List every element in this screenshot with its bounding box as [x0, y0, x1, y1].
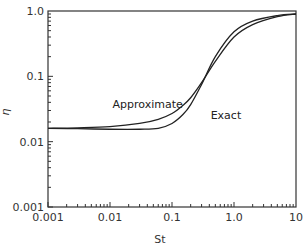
y-tick-label: 0.01 [20, 136, 45, 149]
x-tick-labels: 0.0010.010.11.010 [32, 211, 303, 224]
y-tick-label: 1.0 [27, 5, 45, 18]
x-tick-label: 0.01 [98, 211, 123, 224]
y-tick-label: 0.001 [13, 201, 45, 214]
curves [48, 14, 296, 129]
annotation-approximate: Approximate [113, 98, 183, 111]
y-tick-label: 0.1 [27, 70, 45, 83]
annotation-exact: Exact [211, 109, 242, 122]
curve-approximate [48, 14, 296, 128]
y-tick-labels: 0.0010.010.11.0 [13, 5, 45, 214]
efficiency-vs-stokes-chart: 0.0010.010.11.010 0.0010.010.11.0 Approx… [0, 0, 305, 249]
curve-exact [48, 14, 296, 129]
x-axis-label: St [154, 233, 166, 246]
x-tick-label: 1.0 [225, 211, 243, 224]
x-tick-label: 10 [289, 211, 303, 224]
x-tick-label: 0.1 [163, 211, 181, 224]
y-axis-label: η [0, 108, 12, 115]
curve-annotations: ApproximateExact [113, 98, 242, 123]
